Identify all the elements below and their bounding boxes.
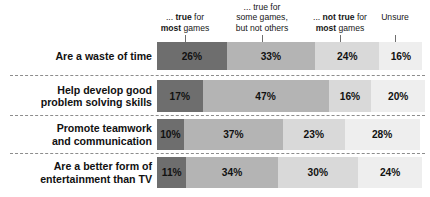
legend-tick-1 [262, 35, 263, 42]
legend-tick-3 [395, 35, 396, 42]
bar-segment[interactable]: 37% [184, 119, 283, 150]
chart-row: Are a waste of time26%33%24%16% [0, 42, 430, 70]
bar-segment[interactable]: 11% [157, 157, 186, 188]
segment-value-label: 33% [261, 51, 281, 62]
segment-value-label: 20% [388, 91, 408, 102]
legend-line-0: ... true for [219, 2, 305, 12]
bar-segment[interactable]: 26% [157, 42, 227, 70]
legend-line-1: ... true for [148, 12, 222, 22]
row-label-line: Are a better form of [6, 160, 152, 172]
segment-value-label: 11% [162, 167, 182, 178]
segment-value-label: 16% [340, 91, 360, 102]
legend-col-unsure: Unsure [369, 12, 421, 22]
bar-segment[interactable]: 28% [345, 119, 420, 150]
bar-segment[interactable]: 10% [157, 119, 184, 150]
bar-segment[interactable]: 16% [329, 80, 372, 112]
bar-segment[interactable]: 33% [227, 42, 315, 70]
segment-value-label: 28% [372, 129, 392, 140]
row-label-line: Help develop good [6, 84, 152, 96]
stacked-bar-chart: ... true formost games... true forsome g… [0, 0, 430, 197]
row-label-line: Are a waste of time [6, 50, 152, 62]
segment-value-label: 26% [182, 51, 202, 62]
bar-segment[interactable]: 30% [278, 157, 358, 188]
chart-row: Are a better form ofentertainment than T… [0, 157, 430, 188]
bar-segment[interactable]: 47% [203, 80, 329, 112]
row-separator [10, 75, 425, 76]
row-label: Promote teamworkand communication [6, 122, 152, 147]
segment-value-label: 16% [391, 51, 411, 62]
segment-value-label: 37% [223, 129, 243, 140]
bar-segment[interactable]: 24% [315, 42, 379, 70]
segment-value-label: 17% [170, 91, 190, 102]
row-label-line: problem solving skills [6, 96, 152, 108]
legend-line-1: ... not true for [300, 12, 380, 22]
row-bar: 10%37%23%28% [157, 119, 425, 150]
bar-segment[interactable]: 23% [283, 119, 345, 150]
row-label-line: Promote teamwork [6, 122, 152, 134]
bar-segment[interactable]: 17% [157, 80, 203, 112]
row-bar: 17%47%16%20% [157, 80, 425, 112]
legend-line-2: most games [300, 23, 380, 33]
segment-value-label: 47% [255, 91, 275, 102]
chart-legend: ... true formost games... true forsome g… [157, 2, 425, 38]
legend-col-some-games: ... true forsome games,but not others [219, 2, 305, 33]
legend-line-2: Unsure [369, 12, 421, 22]
chart-row: Help develop goodproblem solving skills1… [0, 80, 430, 112]
segment-value-label: 10% [160, 129, 180, 140]
bar-segment[interactable]: 20% [371, 80, 425, 112]
row-label-line: entertainment than TV [6, 173, 152, 185]
bar-segment[interactable]: 34% [186, 157, 277, 188]
legend-tick-2 [340, 35, 341, 42]
row-bar: 11%34%30%24% [157, 157, 425, 188]
bar-segment[interactable]: 24% [358, 157, 422, 188]
chart-row: Promote teamworkand communication10%37%2… [0, 119, 430, 150]
row-label-line: and communication [6, 135, 152, 147]
segment-value-label: 34% [222, 167, 242, 178]
row-separator [10, 115, 425, 116]
row-bar: 26%33%24%16% [157, 42, 425, 70]
bar-segment[interactable]: 16% [379, 42, 422, 70]
legend-tick-0 [185, 35, 186, 42]
segment-value-label: 30% [308, 167, 328, 178]
row-label: Are a waste of time [6, 50, 152, 62]
segment-value-label: 24% [337, 51, 357, 62]
legend-col-not-true: ... not true formost games [300, 12, 380, 33]
row-label: Help develop goodproblem solving skills [6, 84, 152, 109]
segment-value-label: 24% [380, 167, 400, 178]
legend-line-1: some games, [219, 12, 305, 22]
segment-value-label: 23% [304, 129, 324, 140]
legend-col-true-most: ... true formost games [148, 12, 222, 33]
legend-line-2: but not others [219, 23, 305, 33]
legend-line-2: most games [148, 23, 222, 33]
row-label: Are a better form ofentertainment than T… [6, 160, 152, 185]
row-separator [10, 153, 425, 154]
